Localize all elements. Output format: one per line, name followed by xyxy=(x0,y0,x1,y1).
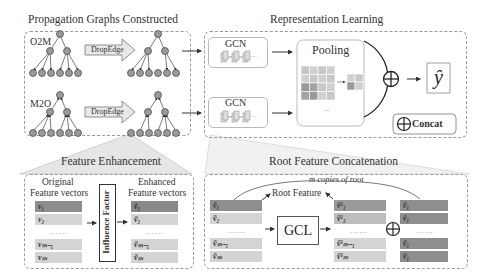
root-concat-graphics xyxy=(0,0,477,274)
concat-plus-icon xyxy=(387,223,400,236)
